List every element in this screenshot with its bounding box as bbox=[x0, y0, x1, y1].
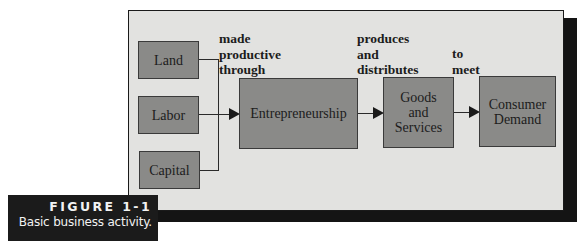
figure-caption: FIGURE 1-1 Basic business activity. bbox=[8, 195, 158, 241]
node-labor-label: Labor bbox=[152, 108, 185, 123]
connector-labor bbox=[199, 114, 229, 115]
node-goods-line3: Services bbox=[395, 120, 442, 135]
edge-label-line: through bbox=[219, 62, 281, 78]
node-entrepreneurship-label: Entrepreneurship bbox=[250, 106, 346, 121]
node-capital: Capital bbox=[139, 151, 200, 189]
figure-description: Basic business activity. bbox=[12, 214, 152, 230]
edge-label-line: made bbox=[219, 31, 281, 47]
edge-label-to-meet: tomeet bbox=[452, 46, 480, 77]
figure-number: FIGURE 1-1 bbox=[12, 199, 152, 214]
node-consumer-line2: Demand bbox=[494, 112, 541, 127]
node-goods-and-services: Goods and Services bbox=[383, 77, 454, 148]
edge-label-produces-and-distributes: producesanddistributes bbox=[357, 31, 419, 78]
edge-label-line: distributes bbox=[357, 62, 419, 78]
node-goods-line1: Goods bbox=[400, 90, 437, 105]
node-consumer-line1: Consumer bbox=[489, 97, 547, 112]
node-land: Land bbox=[138, 41, 199, 79]
node-labor: Labor bbox=[138, 96, 199, 134]
edge-label-made-productive-through: madeproductivethrough bbox=[219, 31, 281, 78]
edge-label-line: produces bbox=[357, 31, 419, 47]
edge-label-line: to bbox=[452, 46, 480, 62]
connector-entrepreneurship-goods bbox=[358, 113, 374, 114]
connector-goods-consumer bbox=[454, 112, 470, 113]
node-capital-label: Capital bbox=[149, 163, 189, 178]
node-entrepreneurship: Entrepreneurship bbox=[239, 78, 358, 149]
node-consumer-demand: Consumer Demand bbox=[479, 76, 556, 147]
connector-capital bbox=[200, 170, 218, 171]
edge-label-line: meet bbox=[452, 62, 480, 78]
node-land-label: Land bbox=[154, 53, 183, 68]
node-goods-line2: and bbox=[408, 105, 428, 120]
connector-land bbox=[199, 59, 218, 60]
edge-label-line: and bbox=[357, 47, 419, 63]
edge-label-line: productive bbox=[219, 47, 281, 63]
